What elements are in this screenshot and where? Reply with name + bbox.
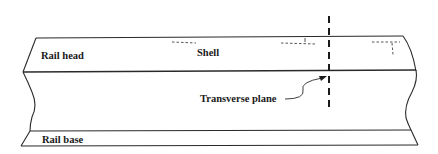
arrow-head-icon [319,76,327,81]
shell-label: Shell [197,48,219,59]
rail-base-label: Rail base [42,135,83,146]
rail-head-right-edge [403,36,416,71]
rail-diagram: Rail head Shell Transverse plane Rail ba… [0,0,438,154]
transverse-plane-arrow [285,78,322,99]
rail-web-left-edge [23,72,35,131]
rail-outline-svg [0,0,438,154]
shell-crack-right-drop [392,43,393,55]
transverse-plane-label: Transverse plane [200,94,277,105]
shell-crack-left [172,42,196,43]
rail-head-label: Rail head [41,51,84,62]
rail-head-top-edge [36,36,403,38]
rail-base-top-edge [30,130,411,131]
rail-web-right-edge [406,70,417,130]
rail-head-left-edge [23,38,36,72]
rail-base-right-edge [411,130,418,145]
rail-head-bottom-edge [23,70,416,72]
rail-base-left-edge [21,131,30,146]
shell-crack-middle [281,43,316,44]
